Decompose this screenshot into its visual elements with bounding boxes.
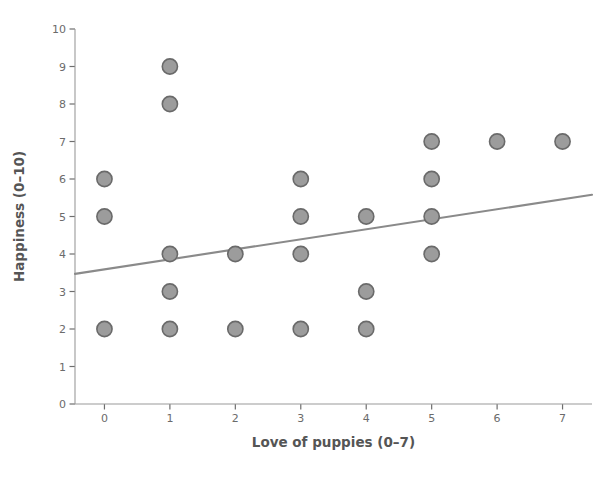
data-point-marker xyxy=(162,246,177,261)
data-point-marker xyxy=(162,96,177,111)
y-axis-title: Happiness (0–10) xyxy=(11,151,27,282)
y-tick-label: 0 xyxy=(59,398,66,411)
data-point-marker xyxy=(293,209,308,224)
data-points-group xyxy=(97,59,570,337)
data-point-marker xyxy=(228,321,243,336)
data-point-marker xyxy=(162,284,177,299)
x-axis-ticks: 01234567 xyxy=(101,404,566,425)
regression-trend-line xyxy=(75,195,592,274)
x-tick-label: 4 xyxy=(363,412,370,425)
x-tick-label: 5 xyxy=(428,412,435,425)
data-point-marker xyxy=(359,321,374,336)
y-tick-label: 9 xyxy=(59,61,66,74)
x-tick-label: 6 xyxy=(494,412,501,425)
x-tick-label: 3 xyxy=(297,412,304,425)
data-point-marker xyxy=(424,134,439,149)
data-point-marker xyxy=(424,209,439,224)
x-tick-label: 1 xyxy=(166,412,173,425)
plot-canvas: 012345678910 01234567 Love of puppies (0… xyxy=(0,0,609,477)
data-point-marker xyxy=(555,134,570,149)
x-tick-label: 2 xyxy=(232,412,239,425)
data-point-marker xyxy=(97,171,112,186)
x-axis-title: Love of puppies (0–7) xyxy=(252,434,415,450)
x-tick-label: 7 xyxy=(559,412,566,425)
data-point-marker xyxy=(293,246,308,261)
data-point-marker xyxy=(293,171,308,186)
y-tick-label: 10 xyxy=(52,23,66,36)
data-point-marker xyxy=(97,321,112,336)
data-point-marker xyxy=(424,171,439,186)
y-tick-label: 8 xyxy=(59,98,66,111)
data-point-marker xyxy=(162,321,177,336)
data-point-marker xyxy=(424,246,439,261)
y-axis-ticks: 012345678910 xyxy=(52,23,75,411)
data-point-marker xyxy=(162,59,177,74)
y-tick-label: 3 xyxy=(59,286,66,299)
y-tick-label: 7 xyxy=(59,136,66,149)
trend-line-group xyxy=(75,195,592,274)
scatter-plot-figure: 012345678910 01234567 Love of puppies (0… xyxy=(0,0,609,477)
y-tick-label: 5 xyxy=(59,211,66,224)
data-point-marker xyxy=(97,209,112,224)
y-tick-label: 4 xyxy=(59,248,66,261)
y-tick-label: 2 xyxy=(59,323,66,336)
data-point-marker xyxy=(490,134,505,149)
data-point-marker xyxy=(359,209,374,224)
x-tick-label: 0 xyxy=(101,412,108,425)
y-tick-label: 6 xyxy=(59,173,66,186)
y-tick-label: 1 xyxy=(59,361,66,374)
data-point-marker xyxy=(293,321,308,336)
data-point-marker xyxy=(228,246,243,261)
data-point-marker xyxy=(359,284,374,299)
